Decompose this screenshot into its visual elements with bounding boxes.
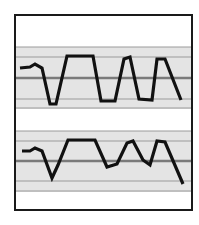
line-trace-diagram [0, 0, 199, 225]
upper-panel [15, 47, 192, 109]
lower-panel [15, 131, 192, 192]
diagram-canvas [0, 0, 199, 225]
